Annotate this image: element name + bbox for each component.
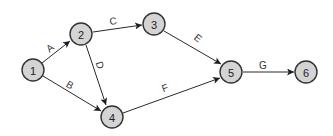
node-6-label: 6 [303,67,309,79]
edge-f: F [123,78,220,113]
edge-b: B [43,76,101,111]
edge-g-label: G [259,60,267,71]
network-diagram: A B C D E F G 1 [0,0,333,136]
node-1: 1 [22,59,44,81]
edge-d: D [86,45,106,105]
edge-c: C [93,15,142,32]
node-4-label: 4 [109,112,115,124]
node-4: 4 [101,106,123,128]
node-5-label: 5 [228,67,234,79]
edge-d-arrow [86,45,106,105]
edge-e-label: E [192,32,204,45]
edge-c-arrow [93,25,142,32]
node-5: 5 [220,61,242,83]
node-1-label: 1 [30,65,36,77]
node-2-label: 2 [78,29,84,41]
edge-c-label: C [109,15,118,27]
node-6: 6 [295,61,317,83]
edge-a-label: A [44,41,56,54]
edge-e-arrow [164,31,221,64]
edge-e: E [164,31,221,64]
nodes: 1 2 3 4 5 6 [22,13,317,128]
edge-g: G [243,60,294,73]
edge-a: A [42,41,70,63]
node-3-label: 3 [151,19,157,31]
edge-d-label: D [94,60,107,70]
node-3: 3 [143,13,165,35]
edge-f-arrow [123,78,220,113]
edge-f-label: F [160,82,170,94]
node-2: 2 [70,23,92,45]
